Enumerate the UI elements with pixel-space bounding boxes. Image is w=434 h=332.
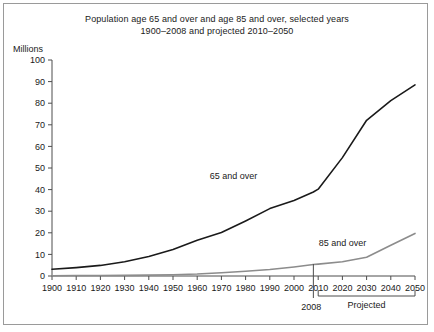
projected-bracket-label: Projected	[348, 300, 386, 310]
x-axis-tick-label: 1920	[90, 283, 110, 293]
y-axis-tick-label: 60	[35, 142, 45, 152]
series-inline-label: 65 and over	[210, 171, 258, 181]
x-axis-tick-label: 2000	[284, 283, 304, 293]
y-axis-tick-label: 40	[35, 185, 45, 195]
x-axis-tick-label: 1930	[115, 283, 135, 293]
observed-end-marker-label: 2008	[301, 302, 321, 312]
x-axis-tick-label: 2030	[357, 283, 377, 293]
y-axis-tick-label: 0	[40, 271, 45, 281]
x-axis-tick-label: 1960	[187, 283, 207, 293]
x-axis-tick-label: 1980	[236, 283, 256, 293]
x-axis-tick-label: 2020	[332, 283, 352, 293]
x-axis-tick-label: 1910	[66, 283, 86, 293]
y-axis-tick-label: 70	[35, 120, 45, 130]
x-axis: 1900191019201930194019501960197019801990…	[42, 276, 425, 293]
x-axis-tick-label: 1990	[260, 283, 280, 293]
y-axis-tick-label: 100	[30, 55, 45, 65]
x-axis-tick-label: 1970	[211, 283, 231, 293]
x-axis-tick-label: 1900	[42, 283, 62, 293]
chart-figure: Population age 65 and over and age 85 an…	[0, 0, 434, 332]
chart-plot-area: 0102030405060708090100 19001910192019301…	[0, 0, 434, 332]
y-axis-tick-label: 30	[35, 206, 45, 216]
y-axis-tick-label: 20	[35, 228, 45, 238]
y-axis-tick-label: 90	[35, 77, 45, 87]
x-axis-tick-label: 2040	[381, 283, 401, 293]
series-labels: 65 and over85 and over	[210, 171, 366, 248]
series-inline-label: 85 and over	[319, 238, 367, 248]
y-axis-tick-label: 80	[35, 98, 45, 108]
y-axis-tick-label: 50	[35, 163, 45, 173]
y-axis: 0102030405060708090100	[30, 55, 52, 281]
x-axis-tick-label: 1940	[139, 283, 159, 293]
y-axis-tick-label: 10	[35, 250, 45, 260]
x-axis-tick-label: 1950	[163, 283, 183, 293]
